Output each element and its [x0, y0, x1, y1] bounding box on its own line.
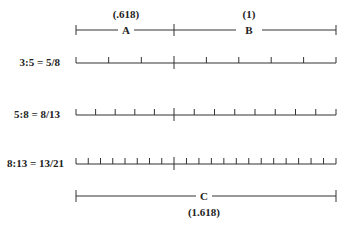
ruler-3-5: [76, 56, 336, 69]
segment-a-label: A: [122, 24, 130, 36]
ruler-5-8: [76, 108, 336, 121]
segment-b-value: (1): [243, 8, 256, 21]
top-ab-segment: [76, 24, 336, 36]
golden-ratio-diagram: (.618) A (1) B 3:5 = 5/8 5:8 = 8/13 8:13…: [0, 0, 354, 228]
segment-a-value: (.618): [113, 8, 140, 21]
segment-b-label: B: [245, 24, 253, 36]
segment-c-value: (1.618): [188, 206, 220, 219]
segment-c-label: C: [200, 190, 208, 202]
row-label-8-13: 8:13 = 13/21: [7, 157, 64, 169]
row-label-3-5: 3:5 = 5/8: [20, 56, 61, 68]
ruler-8-13: [76, 157, 336, 170]
row-label-5-8: 5:8 = 8/13: [14, 108, 60, 120]
